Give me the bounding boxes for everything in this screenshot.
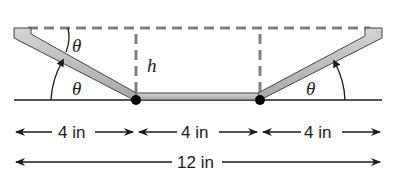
dim-total-label: 12 in bbox=[177, 153, 214, 172]
theta-top-left-label: θ bbox=[72, 35, 81, 56]
dim-right-label: 4 in bbox=[304, 123, 331, 142]
hinge-right bbox=[255, 95, 265, 105]
hinge-left bbox=[131, 95, 141, 105]
right-board bbox=[258, 28, 382, 100]
dim-middle-label: 4 in bbox=[181, 123, 208, 142]
bottom-board bbox=[136, 93, 260, 100]
angle-arc-top-left bbox=[66, 28, 69, 52]
angle-arc-right bbox=[335, 63, 345, 100]
dim-left-label: 4 in bbox=[58, 123, 85, 142]
angle-arc-bottom-left bbox=[51, 62, 62, 100]
trough-diagram: θ θ θ h 4 in 4 in 4 in 12 in bbox=[0, 0, 396, 178]
theta-bottom-left-label: θ bbox=[72, 78, 81, 99]
height-label: h bbox=[147, 55, 157, 76]
theta-right-label: θ bbox=[306, 78, 315, 99]
